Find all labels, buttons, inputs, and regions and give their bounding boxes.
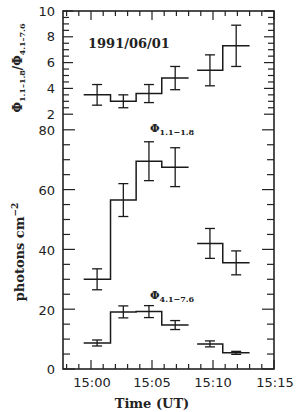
subscript: 1.1–1.8 bbox=[17, 70, 27, 102]
y-tick-label: 20 bbox=[38, 303, 55, 318]
phi-symbol: Φ bbox=[150, 289, 160, 302]
series2-label: Φ4.1−7.6 bbox=[150, 289, 195, 304]
upper-y-tick-labels: 10 8 6 4 2 bbox=[38, 4, 55, 122]
y-tick-label: 4 bbox=[47, 81, 55, 96]
subscript: 4.1−7.6 bbox=[160, 294, 195, 304]
subscript: 1.1−1.8 bbox=[160, 127, 195, 137]
phi-symbol: Φ bbox=[11, 55, 25, 65]
plot-frame bbox=[63, 11, 274, 369]
y-tick-label: 10 bbox=[38, 4, 55, 19]
y-tick-label: 0 bbox=[47, 362, 55, 377]
x-tick-labels: 15:00 15:05 15:10 15:15 bbox=[73, 375, 293, 390]
series-phi-1-1-1-8 bbox=[84, 142, 250, 290]
lower-y-tick-labels: 80 60 40 20 0 bbox=[38, 123, 55, 377]
x-tick-label: 15:00 bbox=[73, 375, 110, 390]
step-line bbox=[84, 46, 250, 101]
y-tick-label: 60 bbox=[38, 183, 55, 198]
lower-y-axis-title: photons cm−2 bbox=[10, 203, 27, 302]
date-annotation: 1991/06/01 bbox=[88, 36, 170, 51]
superscript: −2 bbox=[10, 203, 20, 217]
x-tick-label: 15:10 bbox=[194, 375, 231, 390]
svg-text:Φ1.1–1.8/Φ4.1–7.6: Φ1.1–1.8/Φ4.1–7.6 bbox=[11, 23, 27, 112]
x-axis-title: Time (UT) bbox=[115, 396, 189, 411]
upper-y-axis-title: Φ1.1–1.8/Φ4.1–7.6 bbox=[11, 23, 27, 112]
step-line bbox=[84, 161, 250, 279]
y-tick-label: 80 bbox=[38, 123, 55, 138]
data-series bbox=[84, 25, 250, 354]
phi-symbol: Φ bbox=[11, 102, 25, 112]
chart-figure: 10 8 6 4 2 80 60 40 20 0 15:00 15:05 15:… bbox=[0, 0, 297, 412]
phi-symbol: Φ bbox=[150, 122, 160, 135]
y-tick-label: 8 bbox=[47, 29, 55, 44]
step-line bbox=[84, 312, 250, 353]
y-tick-label: 40 bbox=[38, 243, 55, 258]
x-tick-label: 15:05 bbox=[133, 375, 170, 390]
x-tick-label: 15:15 bbox=[256, 375, 293, 390]
ylabel-text: photons cm bbox=[12, 216, 27, 301]
y-tick-label: 6 bbox=[47, 55, 55, 70]
y-tick-label: 2 bbox=[47, 107, 55, 122]
series1-label: Φ1.1−1.8 bbox=[150, 122, 195, 137]
axis-ticks bbox=[63, 11, 274, 369]
series-phi-4-1-7-6 bbox=[84, 306, 250, 355]
svg-text:photons cm−2: photons cm−2 bbox=[10, 203, 27, 302]
subscript: 4.1–7.6 bbox=[17, 23, 27, 55]
